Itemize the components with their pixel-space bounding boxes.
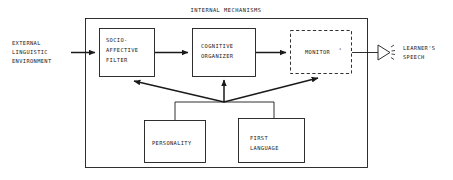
speaker-icon — [378, 45, 395, 60]
personality-label: PERSONALITY — [152, 140, 192, 146]
flow-diagram: INTERNAL MECHANISMS EXTERNAL LINGUISTIC … — [0, 0, 453, 180]
learners-speech-label-line2: SPEECH — [403, 54, 425, 60]
organizer-label-line1: COGNITIVE — [201, 43, 233, 49]
connector-bottom-bracket — [175, 102, 274, 120]
first-language-label-line2: LANGUAGE — [250, 145, 279, 151]
organizer-label-line2: ORGANIZER — [201, 53, 234, 59]
monitor-label: MONITOR — [305, 49, 331, 55]
filter-label-line3: FILTER — [106, 57, 128, 63]
filter-label-line1: SOCIO- — [106, 37, 128, 43]
diagram-canvas: INTERNAL MECHANISMS EXTERNAL LINGUISTIC … — [0, 0, 453, 180]
diagram-title: INTERNAL MECHANISMS — [190, 7, 261, 13]
connector-junction-to-monitor — [224, 78, 318, 102]
node-first-language — [239, 119, 305, 163]
external-environment-label-line1: EXTERNAL — [12, 40, 41, 46]
connector-junction-to-filter — [134, 81, 224, 102]
external-environment-label-line2: LINGUISTIC — [12, 49, 48, 55]
learners-speech-label-line1: LEARNER'S — [403, 45, 435, 51]
first-language-label-line1: FIRST — [250, 135, 268, 141]
external-environment-label-line3: ENVIRONMENT — [12, 58, 52, 64]
filter-label-line2: AFFECTIVE — [106, 47, 138, 53]
